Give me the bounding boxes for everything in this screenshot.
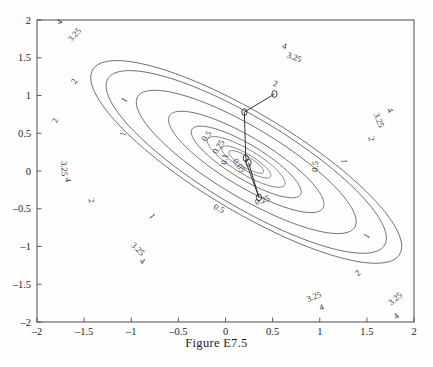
- y-tick-label: –1: [20, 241, 32, 252]
- y-tick-label: 0.5: [18, 128, 31, 139]
- contour-label: 3.25: [59, 161, 70, 176]
- y-tick-label: –0.5: [12, 203, 31, 214]
- y-tick-label: 2: [26, 15, 31, 26]
- y-tick-label: 1.5: [18, 52, 31, 63]
- contour-plot: –2–1.5–1–0.500.511.52 –2–1.5–1–0.500.511…: [0, 0, 433, 367]
- contour-label: 1: [339, 159, 349, 163]
- y-tick-label: 0: [26, 166, 31, 177]
- figure-caption: Figure E7.5: [0, 336, 433, 351]
- y-tick-label: –1.5: [12, 279, 31, 290]
- contour-label: 0.5: [309, 161, 320, 173]
- y-tick-label: 1: [26, 90, 31, 101]
- figure-container: –2–1.5–1–0.500.511.52 –2–1.5–1–0.500.511…: [0, 0, 433, 367]
- y-tick-label: –2: [20, 317, 32, 328]
- contour-label: 0.1: [219, 153, 230, 165]
